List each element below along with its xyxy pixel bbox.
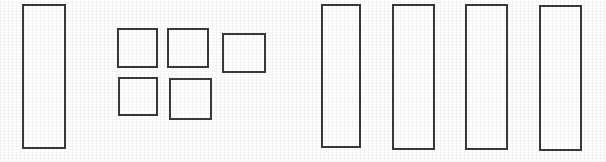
tall-rectangle-3 [392,4,435,150]
tall-rectangle-5 [539,5,582,151]
tall-rectangle-1 [22,4,66,149]
square-bottom-2 [169,78,212,120]
tall-rectangle-4 [465,4,508,150]
square-top-1 [117,28,158,68]
tall-rectangle-2 [321,4,361,148]
figure-canvas [0,0,606,162]
square-top-3 [222,33,266,73]
scan-grain-overlay [0,0,606,162]
square-bottom-1 [118,77,158,116]
square-top-2 [167,28,209,68]
